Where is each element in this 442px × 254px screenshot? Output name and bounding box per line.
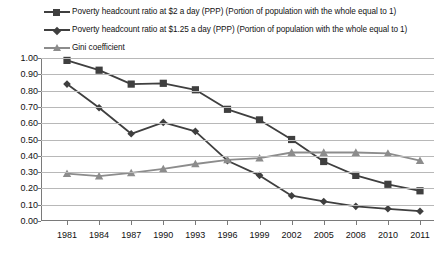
data-point-marker — [384, 181, 391, 188]
legend-marker-triangle-icon — [44, 42, 70, 54]
legend-label-gini-coefficient: Gini coefficient — [72, 43, 125, 53]
series-line — [67, 84, 420, 211]
y-axis-tick-label: 0.70 — [20, 102, 38, 111]
gridline — [41, 107, 434, 108]
data-point-marker — [352, 203, 360, 211]
x-axis-tick-label: 2010 — [378, 230, 398, 241]
x-axis-tick — [227, 221, 228, 225]
x-axis-tick-label: 1999 — [250, 230, 270, 241]
x-axis-tick-label: 2002 — [282, 230, 302, 241]
data-point-marker — [320, 158, 327, 165]
x-axis-tick-label: 1987 — [121, 230, 141, 241]
y-axis-tick-label: 0.30 — [20, 168, 38, 177]
x-axis-tick — [163, 221, 164, 225]
legend-label-poverty-2-dollar: Poverty headcount ratio at $2 a day (PPP… — [72, 7, 396, 17]
legend-marker-square-icon — [44, 6, 70, 18]
data-point-marker — [384, 205, 392, 213]
y-axis-tick-label: 1.00 — [20, 54, 38, 63]
y-axis-tick-label: 0.20 — [20, 184, 38, 193]
line-chart: Poverty headcount ratio at $2 a day (PPP… — [0, 0, 442, 254]
y-axis-tick-label: 0.50 — [20, 135, 38, 144]
y-axis-tick — [38, 123, 41, 124]
chart-legend: Poverty headcount ratio at $2 a day (PPP… — [44, 3, 436, 57]
x-axis-tick — [67, 221, 68, 225]
x-axis-tick — [260, 221, 261, 225]
gridline — [41, 172, 434, 173]
x-axis-tick-label: 2011 — [410, 230, 429, 241]
x-axis-tick — [420, 221, 421, 225]
x-axis-labels: 1981198419871990199319961999200220052008… — [41, 230, 434, 246]
legend-item-gini-coefficient: Gini coefficient — [44, 39, 436, 57]
gridline — [41, 156, 434, 157]
y-axis-tick-label: 0.80 — [20, 86, 38, 95]
data-point-marker — [160, 80, 167, 87]
x-axis-tick — [388, 221, 389, 225]
y-axis-tick-label: 0.60 — [20, 119, 38, 128]
y-axis-labels: 1.000.900.800.700.600.500.400.300.200.10… — [8, 58, 38, 221]
legend-marker-diamond-icon — [44, 24, 70, 36]
x-axis-tick-label: 2005 — [314, 230, 334, 241]
gridline — [41, 91, 434, 92]
x-axis-tick-label: 1981 — [57, 230, 77, 241]
y-axis-tick — [38, 91, 41, 92]
x-axis-tick — [99, 221, 100, 225]
y-axis-tick — [38, 107, 41, 108]
data-point-marker — [96, 67, 103, 74]
y-axis-tick — [38, 156, 41, 157]
gridline — [41, 205, 434, 206]
x-axis-tick-label: 1993 — [185, 230, 205, 241]
gridline — [41, 188, 434, 189]
legend-item-poverty-125-dollar: Poverty headcount ratio at $1.25 a day (… — [44, 21, 436, 39]
legend-item-poverty-2-dollar: Poverty headcount ratio at $2 a day (PPP… — [44, 3, 436, 21]
data-point-marker — [128, 81, 135, 88]
plot-area: 1.000.900.800.700.600.500.400.300.200.10… — [0, 58, 442, 254]
gridline — [41, 58, 434, 59]
y-axis-tick — [38, 58, 41, 59]
series-2 — [63, 80, 424, 215]
x-axis-tick — [131, 221, 132, 225]
y-axis-tick-label: 0.00 — [20, 217, 38, 226]
x-axis-tick-label: 1984 — [89, 230, 109, 241]
plot-canvas — [41, 58, 434, 221]
y-axis-tick-label: 0.40 — [20, 151, 38, 160]
x-axis-tick — [324, 221, 325, 225]
x-axis-tick — [356, 221, 357, 225]
y-axis-tick-label: 0.10 — [20, 200, 38, 209]
y-axis-tick — [38, 221, 41, 222]
data-point-marker — [416, 207, 424, 215]
y-axis-tick — [38, 205, 41, 206]
y-axis-tick — [38, 172, 41, 173]
y-axis-tick — [38, 188, 41, 189]
y-axis-tick — [38, 74, 41, 75]
series-3 — [63, 148, 424, 179]
y-axis-tick — [38, 140, 41, 141]
gridline — [41, 123, 434, 124]
x-axis-tick-label: 1990 — [153, 230, 173, 241]
gridline — [41, 74, 434, 75]
y-axis-tick-label: 0.90 — [20, 70, 38, 79]
x-axis-tick — [195, 221, 196, 225]
x-axis-tick-label: 1996 — [217, 230, 237, 241]
x-axis-tick — [292, 221, 293, 225]
legend-label-poverty-125-dollar: Poverty headcount ratio at $1.25 a day (… — [72, 25, 407, 35]
x-axis-tick-label: 2008 — [346, 230, 366, 241]
gridline — [41, 140, 434, 141]
